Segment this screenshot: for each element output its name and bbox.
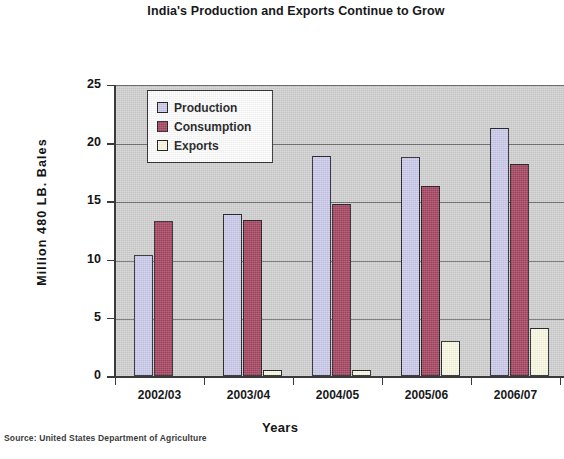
- bar-exports-2005-06: [441, 341, 460, 376]
- x-axis-tick: [382, 377, 383, 385]
- bar-exports-2006-07: [530, 328, 549, 376]
- legend-label-production: Production: [174, 101, 237, 115]
- legend-label-consumption: Consumption: [174, 120, 251, 134]
- bar-production-2006-07: [490, 128, 509, 376]
- y-axis-tick: [107, 376, 115, 377]
- bar-consumption-2004-05: [332, 204, 351, 376]
- x-axis-tick: [560, 377, 561, 385]
- chart-title: India's Production and Exports Continue …: [0, 4, 564, 18]
- legend-item-production: Production: [157, 98, 266, 117]
- y-axis-tick-label: 25: [61, 77, 101, 91]
- y-axis-tick-label: 15: [61, 193, 101, 207]
- legend-item-exports: Exports: [157, 136, 266, 155]
- legend-swatch-icon-exports: [157, 140, 168, 151]
- y-axis-tick-label: 5: [61, 310, 101, 324]
- x-axis-tick: [471, 377, 472, 385]
- bar-production-2002-03: [134, 255, 153, 376]
- y-axis-tick-label: 0: [61, 368, 101, 382]
- bar-exports-2003-04: [263, 370, 282, 376]
- bar-consumption-2005-06: [421, 186, 440, 376]
- x-axis-tick: [115, 377, 116, 385]
- legend-swatch-icon-production: [157, 102, 168, 113]
- bar-production-2004-05: [312, 156, 331, 376]
- x-axis-line: [107, 376, 564, 378]
- legend-label-exports: Exports: [174, 139, 219, 153]
- chart-figure: India's Production and Exports Continue …: [0, 0, 564, 459]
- x-axis-title: Years: [262, 420, 298, 435]
- bar-consumption-2003-04: [243, 220, 262, 376]
- x-axis-tick-label-2006-07: 2006/07: [471, 388, 561, 402]
- y-axis-tick: [107, 260, 115, 261]
- y-axis-tick: [107, 201, 115, 202]
- y-axis-tick-label: 20: [61, 135, 101, 149]
- bar-production-2005-06: [401, 157, 420, 376]
- legend-item-consumption: Consumption: [157, 117, 266, 136]
- y-axis-tick: [107, 85, 115, 86]
- bar-consumption-2002-03: [154, 221, 173, 376]
- chart-legend: Production Consumption Exports: [147, 90, 273, 163]
- x-axis-tick: [204, 377, 205, 385]
- bar-exports-2004-05: [352, 370, 371, 376]
- x-axis-tick-label-2002-03: 2002/03: [115, 388, 205, 402]
- y-axis-title: Million 480 LB. Bales: [35, 102, 49, 322]
- y-axis-tick: [107, 143, 115, 144]
- x-axis-tick: [293, 377, 294, 385]
- x-axis-tick-label-2005-06: 2005/06: [382, 388, 472, 402]
- bar-production-2003-04: [223, 214, 242, 376]
- y-axis-tick-label: 10: [61, 252, 101, 266]
- legend-swatch-icon-consumption: [157, 121, 168, 132]
- x-axis-tick-label-2003-04: 2003/04: [204, 388, 294, 402]
- x-axis-tick-label-2004-05: 2004/05: [293, 388, 383, 402]
- source-note: Source: United States Department of Agri…: [4, 433, 207, 443]
- y-axis-tick: [107, 318, 115, 319]
- bar-consumption-2006-07: [510, 164, 529, 376]
